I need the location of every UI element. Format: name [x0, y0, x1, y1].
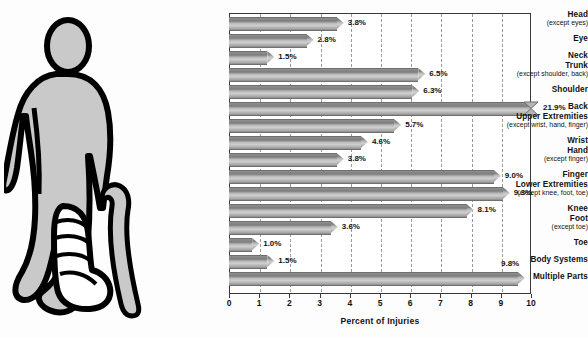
x-axis: 012345678910	[229, 294, 531, 308]
x-axis-title: Percent of Injuries	[229, 316, 531, 326]
bar-tip-arrow	[307, 34, 314, 46]
bar-value-label: 9.0%	[505, 171, 523, 180]
bar-value-label: 3.8%	[348, 18, 366, 27]
bar-value-label: 3.8%	[348, 154, 366, 163]
x-tick-label: 7	[438, 298, 443, 308]
bar-value-label: 8.1%	[478, 205, 496, 214]
bar-row: Hand(except finger)3.8%	[0, 151, 588, 168]
bar-container: 9.3%	[229, 185, 531, 202]
bar-tip-arrow	[503, 187, 510, 199]
bar-container: 3.8%	[229, 15, 531, 32]
bar-value-label: 9.8%	[501, 259, 519, 268]
bar-tip-arrow	[394, 119, 401, 131]
bar-tip-arrow	[418, 68, 425, 80]
bar-container: 1.0%	[229, 236, 531, 253]
bar[interactable]	[229, 221, 331, 235]
bar-row: Upper Extremities(except wrist, hand, fi…	[0, 117, 588, 134]
x-tick-label: 2	[287, 298, 292, 308]
bar-value-label: 9.3%	[514, 188, 532, 197]
bar-container: 5.7%	[229, 117, 531, 134]
bar[interactable]	[229, 187, 503, 201]
x-tick-label: 8	[468, 298, 473, 308]
bar-value-label: 6.3%	[423, 86, 441, 95]
bar-row: Body Systems1.5%	[0, 253, 588, 270]
bar-container: 1.5%	[229, 253, 531, 270]
bar-value-label: 2.8%	[318, 35, 336, 44]
bar-row: Head(except eyes)3.8%	[0, 15, 588, 32]
bar[interactable]	[229, 153, 337, 167]
bar-value-label: 1.5%	[278, 52, 296, 61]
bar-tip-arrow	[412, 85, 419, 97]
bar-value-label: 1.5%	[278, 256, 296, 265]
bar-container: 9.8%	[229, 270, 531, 287]
bar[interactable]	[229, 255, 267, 269]
bar-value-label: 6.5%	[429, 69, 447, 78]
bar[interactable]	[229, 238, 252, 252]
bar-tip-arrow	[252, 238, 259, 250]
bar[interactable]	[229, 119, 394, 133]
bar-row: Multiple Parts9.8%	[0, 270, 588, 287]
bar-row: Shoulder6.3%	[0, 83, 588, 100]
x-tick-label: 0	[227, 298, 232, 308]
bar-container: 3.8%	[229, 151, 531, 168]
bar-tip-arrow	[267, 51, 274, 63]
x-tick-label: 5	[378, 298, 383, 308]
bar-value-label: 1.0%	[263, 239, 281, 248]
x-tick-label: 1	[257, 298, 262, 308]
bar[interactable]	[229, 136, 361, 150]
bar-tip-arrow	[337, 153, 344, 165]
bar-container: 2.8%	[229, 32, 531, 49]
x-tick-label: 4	[347, 298, 352, 308]
injury-bar-chart: Head(except eyes)3.8%Eye2.8%Neck1.5%Trun…	[0, 0, 588, 338]
bar-tip-arrow	[331, 221, 338, 233]
bar-tip-arrow	[518, 272, 525, 284]
bar-container: 3.6%	[229, 219, 531, 236]
bar[interactable]	[229, 68, 418, 82]
bar-tip-arrow	[267, 255, 274, 267]
chart-page: Head(except eyes)3.8%Eye2.8%Neck1.5%Trun…	[0, 0, 588, 338]
bar-value-label: 3.6%	[342, 222, 360, 231]
bar-row: Lower Extremities(except knee, foot, toe…	[0, 185, 588, 202]
bar[interactable]	[229, 51, 267, 65]
bar-value-label: 4.6%	[372, 137, 390, 146]
bar-value-label: 21.9%	[543, 103, 566, 112]
bar[interactable]	[229, 85, 412, 99]
bar[interactable]	[229, 34, 307, 48]
bar[interactable]	[229, 272, 518, 286]
x-tick-label: 6	[408, 298, 413, 308]
bar-row: Toe1.0%	[0, 236, 588, 253]
bar-row: Trunk(except shoulder, back)6.5%	[0, 66, 588, 83]
x-tick-label: 10	[526, 298, 535, 308]
bar-row: Foot(except toe)3.6%	[0, 219, 588, 236]
bar-container: 6.5%	[229, 66, 531, 83]
bar-tip-arrow	[337, 17, 344, 29]
x-tick-label: 3	[317, 298, 322, 308]
x-tick-label: 9	[498, 298, 503, 308]
bar-value-label: 5.7%	[405, 120, 423, 129]
bar-tip-arrow	[361, 136, 368, 148]
bar-row: Eye2.8%	[0, 32, 588, 49]
bar[interactable]	[229, 17, 337, 31]
bar-container: 6.3%	[229, 83, 531, 100]
